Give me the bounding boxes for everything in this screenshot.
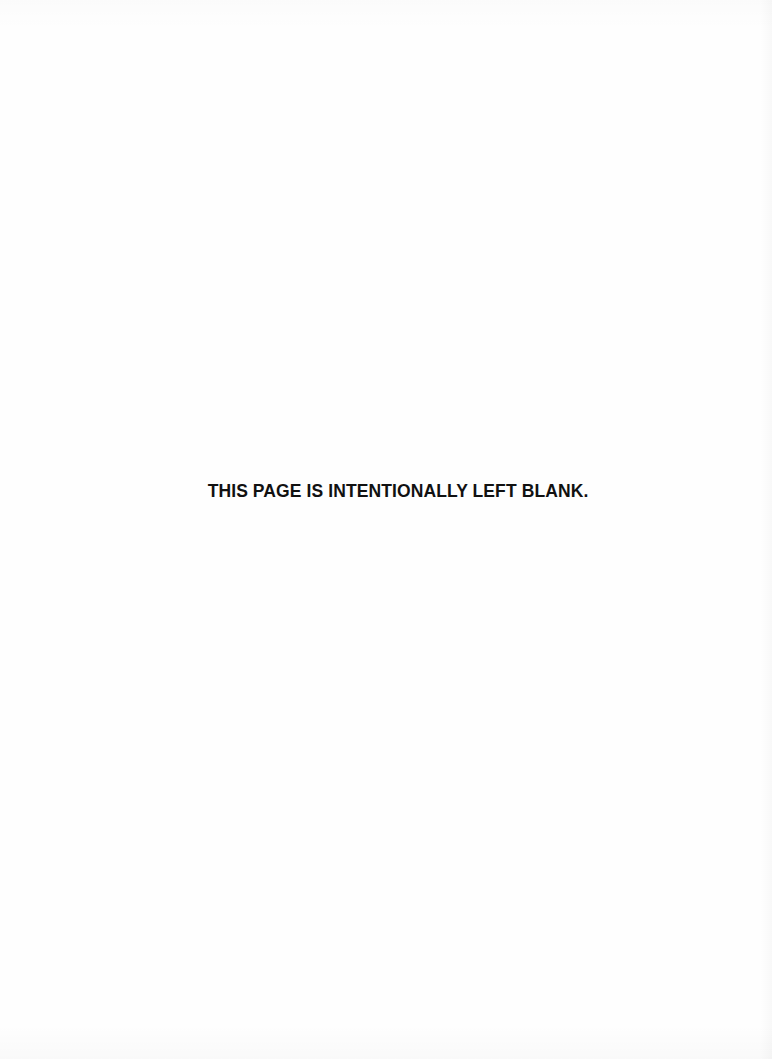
blank-page-notice: THIS PAGE IS INTENTIONALLY LEFT BLANK. xyxy=(0,481,772,501)
document-page: THIS PAGE IS INTENTIONALLY LEFT BLANK. xyxy=(0,0,772,1059)
